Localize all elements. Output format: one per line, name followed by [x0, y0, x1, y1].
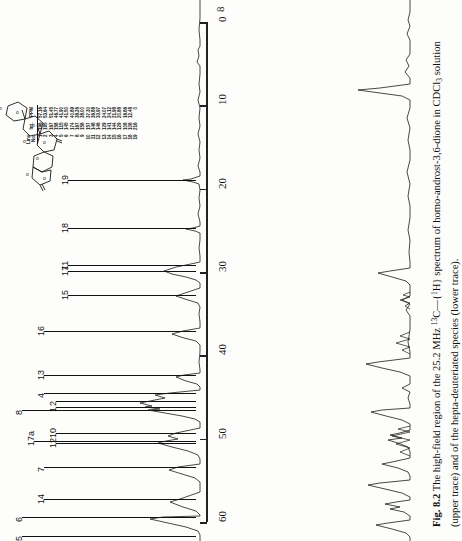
peak-leader-line — [56, 401, 196, 402]
caption-part-1: The high-field region of the 25.2 MHz — [431, 325, 442, 491]
axis-tick — [200, 272, 207, 274]
peak-leader-line — [44, 375, 196, 376]
structure-atom-label: o — [0, 105, 2, 111]
cell-ppm: 20.88 — [117, 105, 122, 121]
peak-leader-line — [56, 433, 196, 434]
structure-atom-label: o — [36, 155, 39, 161]
peak-leader-line — [68, 265, 196, 266]
axis-tick — [200, 355, 207, 357]
table-row: 1612920.88 — [117, 105, 122, 144]
peak-leader-line — [44, 467, 196, 468]
caption-c13: C — [431, 311, 442, 318]
ppm-axis — [206, 22, 208, 522]
axis-tick-label: 50 — [216, 428, 228, 439]
peak-leader-line — [44, 393, 196, 394]
cell-int: 216 — [133, 120, 138, 132]
table-row: 1214633.97 — [96, 105, 101, 144]
peak-label-17a: 17a — [26, 431, 36, 446]
peak-leader-line — [68, 271, 196, 272]
caption-c13-superscript: 13 — [430, 318, 439, 326]
structure-atom-label: o — [16, 109, 19, 115]
axis-tick — [200, 22, 207, 24]
axis-tick-label: 10 — [216, 94, 228, 105]
figure-page-marker: 8 — [214, 7, 226, 13]
cell-ppm: 41.50 — [64, 105, 69, 121]
structure-atom-label: o — [26, 171, 29, 177]
lower-trace-spectrum — [230, 0, 415, 541]
peak-leader-line — [56, 443, 196, 444]
cell-ppm: 33.97 — [96, 105, 101, 121]
axis-tick-label: 0 — [216, 17, 228, 23]
caption-solvent-subscript: 3 — [435, 78, 444, 82]
axis-tick-label: 40 — [216, 344, 228, 355]
peak-leader-line — [68, 180, 196, 181]
caption-h1: H — [431, 283, 442, 291]
peak-leader-line — [22, 536, 196, 537]
peak-leader-line — [22, 517, 196, 518]
peak-leader-line — [34, 441, 196, 442]
table-row: 192160 — [133, 105, 138, 144]
structure-atom-label: o — [23, 138, 26, 144]
peak-leader-line — [44, 331, 196, 332]
axis-tick — [200, 439, 207, 441]
axis-tick-label: 30 — [216, 261, 228, 272]
caption-h1-superscript: 1 — [430, 291, 439, 295]
axis-tick-label: 20 — [216, 178, 228, 189]
axis-tick — [200, 189, 207, 191]
caption-dash: —{ — [431, 295, 442, 311]
peak-leader-line — [44, 499, 196, 500]
cell-ppm: 38.00 — [80, 105, 85, 121]
caption-part-2: } spectrum of homo-androst-3,6-dione in … — [431, 82, 442, 284]
molecular-structure-diagram: o o o o o o o o — [0, 100, 62, 192]
peak-leader-line — [68, 295, 196, 296]
structure-atom-label: o — [32, 122, 35, 128]
structure-atom-label: o — [43, 175, 46, 181]
cell-ppm: 0 — [133, 105, 138, 121]
structure-atom-label: o — [43, 139, 46, 145]
peak-leader-line — [56, 407, 196, 408]
axis-tick-label: 60 — [216, 511, 228, 522]
peak-leader-line — [68, 228, 196, 229]
axis-tick — [200, 105, 207, 107]
axis-tick — [200, 522, 207, 524]
caption-figure-number: Fig. 8.2 — [431, 494, 442, 527]
cell-line-no: 19 — [133, 132, 138, 144]
peak-leader-line — [22, 410, 196, 411]
figure-caption: Fig. 8.2 The high-field region of the 25… — [428, 17, 462, 527]
